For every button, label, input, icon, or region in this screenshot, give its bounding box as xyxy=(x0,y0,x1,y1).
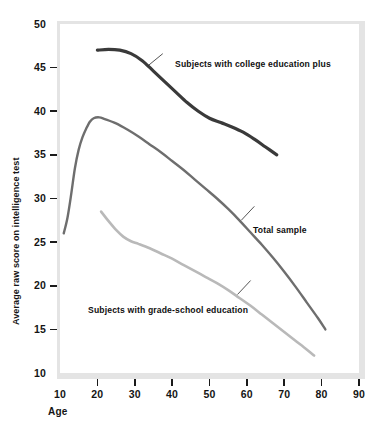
y-tick-label-15: 15 xyxy=(24,324,46,335)
leader-line-1 xyxy=(241,206,254,220)
y-tick-mark-20 xyxy=(50,285,57,287)
y-tick-label-10: 10 xyxy=(24,368,46,379)
y-tick-mark-45 xyxy=(50,67,57,69)
chart-figure: 101520253035404550 102030405060708090 Av… xyxy=(0,0,386,433)
y-tick-label-40: 40 xyxy=(24,106,46,117)
series-line-1 xyxy=(64,117,326,329)
y-tick-mark-15 xyxy=(50,329,57,331)
x-tick-label-10: 10 xyxy=(46,389,74,400)
y-axis-title: Average raw score on intelligence test xyxy=(11,165,21,325)
x-tick-label-30: 30 xyxy=(121,389,149,400)
y-tick-mark-40 xyxy=(50,110,57,112)
x-tick-mark-40 xyxy=(171,379,173,386)
y-tick-mark-30 xyxy=(50,198,57,200)
x-tick-label-70: 70 xyxy=(270,389,298,400)
y-tick-mark-25 xyxy=(50,241,57,243)
y-tick-label-20: 20 xyxy=(24,280,46,291)
x-tick-mark-70 xyxy=(283,379,285,386)
series-label-college: Subjects with college education plus xyxy=(175,60,331,69)
curves-svg xyxy=(60,24,359,373)
leader-line-0 xyxy=(148,54,163,66)
x-tick-mark-80 xyxy=(321,379,323,386)
x-axis-title: Age xyxy=(48,406,68,417)
y-tick-label-50: 50 xyxy=(24,19,46,30)
leader-line-2 xyxy=(238,281,251,295)
x-tick-label-20: 20 xyxy=(83,389,111,400)
series-label-total: Total sample xyxy=(253,226,307,235)
x-tick-label-80: 80 xyxy=(308,389,336,400)
x-tick-label-50: 50 xyxy=(196,389,224,400)
x-tick-mark-60 xyxy=(246,379,248,386)
y-tick-label-25: 25 xyxy=(24,237,46,248)
x-tick-mark-30 xyxy=(134,379,136,386)
y-tick-label-35: 35 xyxy=(24,149,46,160)
series-label-grade: Subjects with grade-school education xyxy=(88,306,248,315)
x-tick-label-40: 40 xyxy=(158,389,186,400)
x-tick-label-90: 90 xyxy=(345,389,373,400)
x-tick-mark-50 xyxy=(209,379,211,386)
x-tick-label-60: 60 xyxy=(233,389,261,400)
annotation-leader-lines xyxy=(148,54,255,295)
y-tick-label-30: 30 xyxy=(24,193,46,204)
x-tick-mark-20 xyxy=(97,379,99,386)
y-tick-label-45: 45 xyxy=(24,62,46,73)
y-tick-mark-35 xyxy=(50,154,57,156)
x-tick-mark-90 xyxy=(358,379,360,386)
plot-area xyxy=(60,24,359,373)
